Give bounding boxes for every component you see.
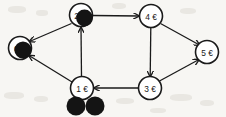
edge-1-to-0 [29,56,72,83]
edge-4-to-5 [161,24,200,46]
edge-3-to-5 [160,60,200,82]
token-on-node-2 [76,10,93,27]
edge-2-to-0 [30,24,72,42]
loose-token-2[interactable] [86,97,105,116]
edge-4-to-3 [150,28,151,77]
graph-node-0[interactable]: 0 [9,37,32,60]
edge-2-to-4 [93,16,140,17]
loose-token-1[interactable] [67,97,86,116]
graph-node-2[interactable]: 2 € [70,4,93,27]
nodes-layer: 0 2 € 4 € 5 € 3 € [9,4,219,100]
node-label: 1 € [76,84,88,94]
edges-layer [29,16,200,89]
graph-node-3[interactable]: 3 € [139,77,162,100]
node-label: 5 € [201,48,213,58]
graph-node-5[interactable]: 5 € [196,41,219,64]
graph-node-1[interactable]: 1 € [71,77,94,100]
node-label: 3 € [144,84,156,94]
graph-node-4[interactable]: 4 € [140,5,163,28]
node-label: 4 € [145,12,157,22]
edge-1-to-2 [81,28,82,77]
graph-svg: 0 2 € 4 € 5 € 3 € [0,0,226,117]
diagram-canvas: 0 2 € 4 € 5 € 3 € [0,0,226,117]
token-on-node-0 [14,41,31,58]
